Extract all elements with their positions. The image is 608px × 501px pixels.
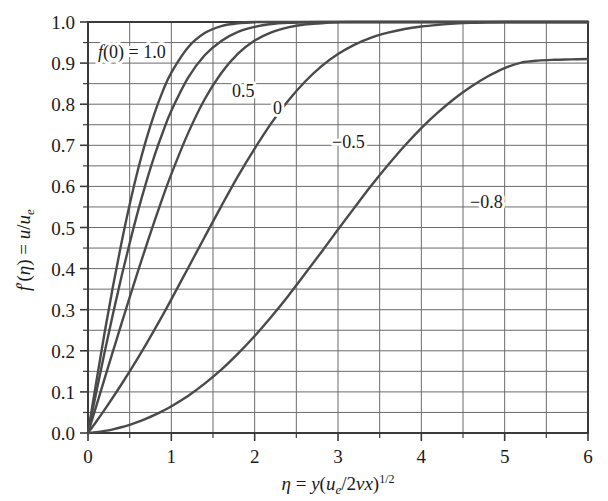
curve-label-fw--0.5: −0.5−0.5: [332, 132, 365, 152]
curve-label-text: −0.8: [470, 192, 503, 212]
x-tick-label: 6: [583, 446, 593, 467]
curve-label-fw-0.5: 0.50.5: [232, 81, 255, 101]
svg-text:f′(η) = u/ue: f′(η) = u/ue: [13, 209, 37, 291]
y-axis-title: f′(η) = u/ue: [13, 209, 37, 291]
y-tick-label: 0.1: [51, 382, 75, 403]
y-tick-label: 0.0: [51, 423, 75, 444]
y-tick-label: 0.8: [51, 94, 75, 115]
y-tick-label: 0.9: [51, 53, 75, 74]
curve-label-text: 0: [273, 98, 282, 118]
curve-label-text: 0.5: [232, 81, 255, 101]
y-tick-label: 1.0: [51, 12, 75, 33]
x-tick-label: 1: [167, 446, 177, 467]
y-tick-label: 0.2: [51, 341, 75, 362]
x-tick-label: 5: [500, 446, 510, 467]
boundary-layer-velocity-profile-chart: 0.00.10.20.30.40.50.60.70.80.91.0 012345…: [0, 0, 608, 501]
x-tick-label: 2: [250, 446, 260, 467]
x-tick-label: 4: [417, 446, 427, 467]
curve-label-fw--0.8: −0.8−0.8: [470, 192, 503, 212]
y-tick-label: 0.3: [51, 300, 75, 321]
y-tick-label: 0.6: [51, 176, 75, 197]
y-tick-label: 0.4: [51, 259, 75, 280]
chart-svg: 0.00.10.20.30.40.50.60.70.80.91.0 012345…: [0, 0, 608, 501]
curve-label-text: f(0) = 1.0: [98, 42, 166, 63]
curve-label-text: −0.5: [332, 132, 365, 152]
x-tick-label: 3: [333, 446, 343, 467]
x-tick-label: 0: [83, 446, 93, 467]
y-tick-label: 0.5: [51, 218, 75, 239]
y-tick-label: 0.7: [51, 135, 75, 156]
curve-label-fw-1.0: f(0) = 1.0f(0) = 1.0: [98, 42, 166, 63]
curve-label-fw-0: 00: [273, 98, 282, 118]
